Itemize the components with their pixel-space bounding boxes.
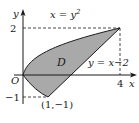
point-label-1-neg1: (1,−1) xyxy=(41,99,73,110)
region-label: D xyxy=(56,56,66,69)
parabola-equation-base: x = y xyxy=(50,9,76,20)
origin-label: O xyxy=(11,75,19,86)
parabola-equation-exponent: 2 xyxy=(75,8,81,16)
y-tick-neg1: −1 xyxy=(5,92,20,103)
line-equation: y = x−2 xyxy=(87,57,129,68)
y-tick-2: 2 xyxy=(10,23,16,34)
region-diagram: y x O 2 −1 4 x = y2 y = x−2 D (1,−1) xyxy=(0,0,139,123)
x-tick-4: 4 xyxy=(117,78,123,89)
parabola-equation: x = y2 xyxy=(50,8,81,20)
y-axis-label: y xyxy=(12,8,19,19)
x-axis-label: x xyxy=(129,78,135,89)
